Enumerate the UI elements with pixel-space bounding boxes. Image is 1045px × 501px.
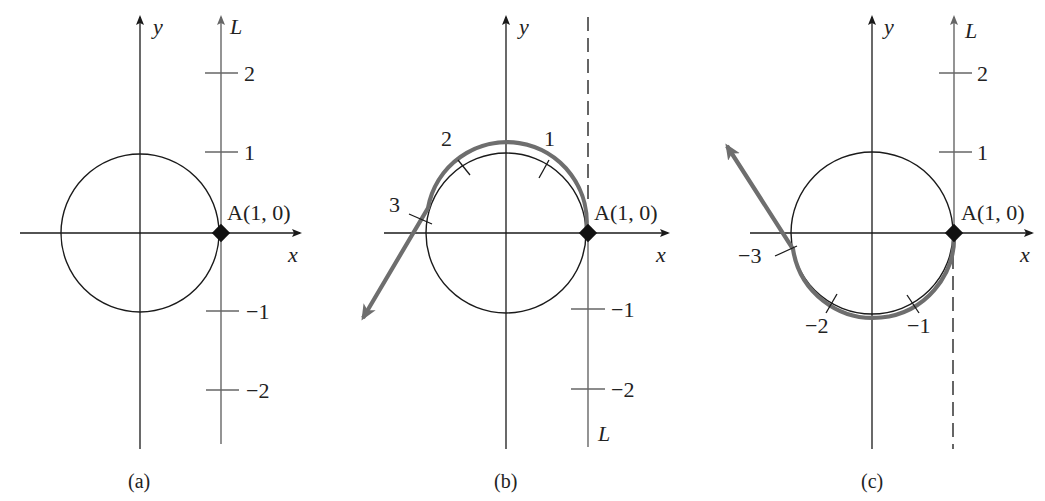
caption-b: (b) [494, 470, 517, 493]
x-axis-label: x [1019, 242, 1030, 267]
y-axis-label: y [882, 14, 894, 39]
wrap-tick-label-neg2: −2 [805, 313, 828, 338]
panel-c: y L 2 1 A(1, 0) x −3 −2 −1 (c) [727, 14, 1032, 493]
x-axis-label: x [287, 242, 298, 267]
y-axis-label: y [517, 14, 529, 39]
tick-label-1: 1 [977, 140, 988, 165]
panel-b: y 1 2 3 A(1, 0) x −1 −2 L (b) [363, 14, 668, 493]
tick-label-neg1: −1 [246, 299, 269, 324]
point-A-marker [579, 224, 597, 242]
wrapped-path [727, 146, 954, 318]
tick-label-neg1: −1 [611, 297, 634, 322]
y-axis-label: y [151, 14, 163, 39]
wrap-tick-label-2: 2 [441, 126, 452, 151]
tick-label-neg2: −2 [611, 377, 634, 402]
tick-label-2: 2 [977, 61, 988, 86]
wrap-tick-label-1: 1 [544, 126, 555, 151]
point-A-marker [212, 224, 230, 242]
x-axis-label: x [655, 242, 666, 267]
tick-label-neg2: −2 [246, 378, 269, 403]
tick-label-1: 1 [244, 140, 255, 165]
point-A-marker [945, 224, 963, 242]
point-A-label: A(1, 0) [227, 200, 291, 225]
tick-label-2: 2 [244, 61, 255, 86]
point-A-label: A(1, 0) [961, 200, 1025, 225]
point-A-label: A(1, 0) [594, 200, 658, 225]
wrap-tick-label-neg1: −1 [907, 313, 930, 338]
panel-a: y L 2 1 −1 −2 A(1, 0) x (a) [20, 14, 300, 493]
caption-a: (a) [128, 470, 150, 493]
figure-canvas: y L 2 1 −1 −2 A(1, 0) x (a) y 1 2 3 A(1,… [0, 0, 1045, 501]
caption-c: (c) [861, 470, 883, 493]
wrap-tick-label-neg3: −3 [738, 243, 761, 268]
line-L-label: L [229, 14, 242, 39]
line-L-label: L [964, 18, 977, 43]
line-L-label: L [597, 421, 610, 446]
wrap-tick-label-3: 3 [389, 192, 400, 217]
